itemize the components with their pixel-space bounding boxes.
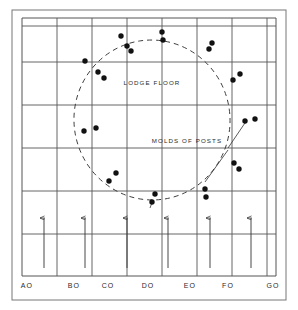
post-mold-dot xyxy=(236,166,241,171)
post-mold-dot xyxy=(95,69,100,74)
axis-label-go: GO xyxy=(266,282,279,289)
post-mold-dot xyxy=(113,170,118,175)
site-plan-svg: AOBOCODOEOFOGO LODGE FLOOR MOLDS OF POST… xyxy=(0,0,298,310)
post-mold-dot xyxy=(93,125,98,130)
post-mold-dot xyxy=(152,191,157,196)
post-mold-dot xyxy=(231,160,236,165)
post-mold-dot xyxy=(209,40,214,45)
axis-label-co: CO xyxy=(102,282,115,289)
axis-label-eo: EO xyxy=(184,282,196,289)
axis-label-do: DO xyxy=(142,282,155,289)
post-mold-dot xyxy=(202,186,207,191)
axis-label-ao: AO xyxy=(21,282,33,289)
post-mold-dot xyxy=(118,33,123,38)
post-mold-dot xyxy=(82,58,87,63)
post-mold-dot xyxy=(106,178,111,183)
post-mold-dot xyxy=(237,71,242,76)
post-mold-dot xyxy=(230,77,235,82)
figure-background xyxy=(0,0,298,310)
post-mold-dot xyxy=(203,194,208,199)
post-mold-dot xyxy=(206,46,211,51)
post-mold-dot xyxy=(124,43,129,48)
axis-label-bo: BO xyxy=(68,282,80,289)
post-mold-dot xyxy=(159,29,164,34)
post-mold-dot xyxy=(160,37,165,42)
post-mold-dot xyxy=(242,118,247,123)
lodge-floor-figure: AOBOCODOEOFOGO LODGE FLOOR MOLDS OF POST… xyxy=(0,0,298,310)
lodge-floor-label: LODGE FLOOR xyxy=(124,79,181,86)
post-mold-dot xyxy=(149,199,154,204)
molds-of-posts-label: MOLDS OF POSTS xyxy=(152,137,222,144)
post-mold-dot xyxy=(252,116,257,121)
post-mold-dot xyxy=(128,48,133,53)
axis-label-fo: FO xyxy=(222,282,234,289)
post-mold-dot xyxy=(81,128,86,133)
post-mold-dot xyxy=(101,75,106,80)
